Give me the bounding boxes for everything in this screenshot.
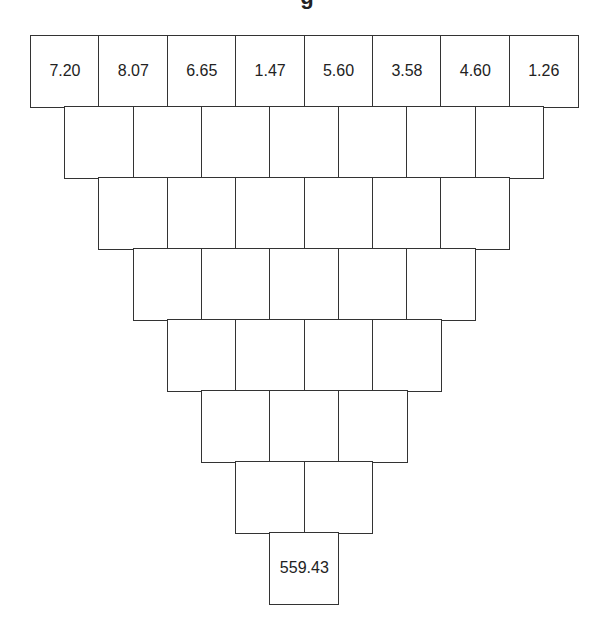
pyramid-cell <box>201 390 271 463</box>
pyramid-cell: 8.07 <box>98 35 168 108</box>
pyramid-cell <box>269 390 339 463</box>
pyramid-cell <box>406 106 476 179</box>
pyramid-cell <box>338 106 408 179</box>
pyramid-cell: 4.60 <box>440 35 510 108</box>
pyramid-cell <box>372 177 442 250</box>
pyramid-cell <box>338 390 408 463</box>
pyramid-cell: 3.58 <box>372 35 442 108</box>
pyramid-cell <box>406 248 476 321</box>
number-pyramid: 7.208.076.651.475.603.584.601.26559.43 <box>0 0 614 633</box>
pyramid-cell <box>269 248 339 321</box>
pyramid-cell <box>304 319 374 392</box>
pyramid-cell <box>133 248 203 321</box>
pyramid-cell <box>201 248 271 321</box>
pyramid-cell <box>201 106 271 179</box>
pyramid-cell <box>133 106 203 179</box>
pyramid-cell <box>98 177 168 250</box>
pyramid-cell: 7.20 <box>30 35 100 108</box>
pyramid-cell: 1.47 <box>235 35 305 108</box>
pyramid-cell <box>167 319 237 392</box>
pyramid-cell <box>64 106 134 179</box>
pyramid-cell <box>235 461 305 534</box>
pyramid-cell <box>338 248 408 321</box>
pyramid-cell <box>167 177 237 250</box>
pyramid-cell <box>235 177 305 250</box>
pyramid-cell <box>235 319 305 392</box>
pyramid-cell: 6.65 <box>167 35 237 108</box>
pyramid-cell <box>304 461 374 534</box>
pyramid-cell: 559.43 <box>269 532 339 605</box>
pyramid-cell <box>440 177 510 250</box>
pyramid-cell <box>304 177 374 250</box>
pyramid-cell: 5.60 <box>304 35 374 108</box>
pyramid-cell <box>269 106 339 179</box>
pyramid-cell: 1.26 <box>509 35 579 108</box>
pyramid-cell <box>372 319 442 392</box>
pyramid-cell <box>475 106 545 179</box>
